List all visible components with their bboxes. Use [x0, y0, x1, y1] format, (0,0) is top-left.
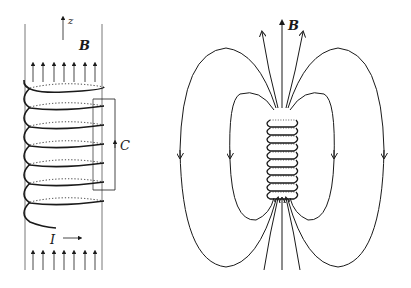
- field-line-top-right: [286, 32, 303, 108]
- solenoid-coil-right: [267, 120, 298, 199]
- outer-loop-right: [288, 48, 384, 267]
- long-solenoid-panel: z B: [24, 15, 130, 270]
- loop-label-c: C: [120, 138, 130, 153]
- solenoid-coil-left: [24, 80, 104, 228]
- z-axis-label: z: [67, 15, 74, 26]
- dipole-field-panel: B: [180, 18, 384, 270]
- field-label-b-right: B: [287, 18, 299, 33]
- current-label-i: I: [49, 232, 56, 247]
- field-line-bottom-right: [286, 198, 300, 270]
- field-line-top-left: [262, 32, 278, 108]
- field-label-b-left: B: [78, 38, 90, 53]
- field-line-bottom-left: [264, 198, 278, 270]
- field-arrows-top: [33, 64, 95, 82]
- solenoid-diagram: z B: [0, 0, 411, 288]
- field-arrows-bottom: [33, 252, 95, 270]
- outer-loop-left: [180, 48, 276, 267]
